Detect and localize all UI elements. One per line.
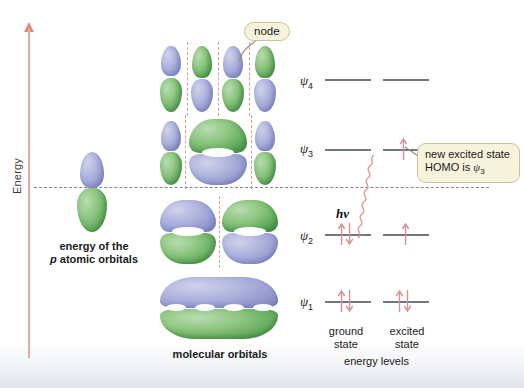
energy-levels-label: energy levels bbox=[315, 355, 438, 368]
atomic-orbital-caption-line1: energy of the bbox=[40, 240, 148, 253]
excited-state-line2: state bbox=[376, 338, 438, 351]
psi3-node-line-1 bbox=[185, 115, 186, 189]
mo-row-psi3 bbox=[160, 119, 280, 185]
psi1-label: ψ1 bbox=[283, 294, 313, 312]
psi2-left-bottom bbox=[160, 233, 216, 264]
psi3-lobe-4-top bbox=[255, 121, 275, 151]
mo-row-psi4 bbox=[160, 46, 280, 112]
ground-state-label: ground state bbox=[315, 325, 377, 351]
psi3-merged-bottom bbox=[189, 154, 247, 185]
psi4-label: ψ4 bbox=[283, 73, 313, 91]
psi4-lobe-1-top bbox=[161, 46, 181, 76]
molecular-orbital-diagram: Energy energy of the p atomic orbitals bbox=[0, 0, 524, 388]
psi4-lobe-2-top bbox=[192, 46, 212, 78]
psi3-label: ψ3 bbox=[283, 141, 313, 159]
homo-is-text: HOMO is bbox=[425, 161, 473, 173]
psi2-right-gap bbox=[234, 227, 266, 236]
excited-state-label: excited state bbox=[376, 325, 438, 351]
psi1-gap-3 bbox=[224, 304, 244, 311]
electron-psi1-ground-down bbox=[345, 289, 354, 313]
excited-callout-line1: new excited state bbox=[425, 148, 512, 161]
psi1-bottom-band bbox=[160, 309, 278, 339]
ground-state-line2: state bbox=[315, 338, 377, 351]
psi4-lobe-3-bottom bbox=[222, 79, 244, 112]
psi4-lobe-4-bottom bbox=[254, 79, 276, 112]
psi3-node-line-2 bbox=[251, 115, 252, 189]
energy-axis-line bbox=[28, 28, 30, 358]
psi3-symbol-inline: ψ3 bbox=[473, 161, 484, 173]
psi1-gap-2 bbox=[195, 304, 215, 311]
psi1-gap-1 bbox=[166, 304, 186, 311]
molecular-orbitals-caption: molecular orbitals bbox=[150, 348, 290, 361]
psi2-node-line-1 bbox=[219, 196, 220, 268]
level-psi4-excited bbox=[383, 79, 429, 81]
psi4-lobe-2-bottom bbox=[191, 79, 213, 112]
level-psi4-ground bbox=[325, 79, 371, 81]
psi1-gap-4 bbox=[253, 304, 273, 311]
psi3-lobe-1-bottom bbox=[160, 152, 182, 185]
psi3-merged-gap bbox=[202, 148, 234, 157]
psi2-right-bottom bbox=[222, 233, 278, 264]
ground-state-line1: ground bbox=[315, 325, 377, 338]
p-atomic-orbital bbox=[72, 152, 112, 232]
new-excited-state-callout: new excited state HOMO is ψ3 bbox=[417, 143, 520, 183]
psi4-node-line-1 bbox=[187, 42, 188, 116]
p-orbital-top-lobe bbox=[80, 152, 104, 188]
psi4-lobe-1-bottom bbox=[160, 78, 182, 112]
mo-row-psi2 bbox=[160, 200, 280, 264]
psi3-subscript-inline: 3 bbox=[480, 167, 484, 176]
psi2-label: ψ2 bbox=[283, 228, 313, 246]
mo-row-psi1 bbox=[160, 277, 280, 339]
excited-state-line1: excited bbox=[376, 325, 438, 338]
electron-psi1-excited-down bbox=[403, 289, 412, 313]
photon-energy-label: hν bbox=[336, 206, 349, 222]
psi3-lobe-1-top bbox=[161, 121, 181, 151]
p-italic: p bbox=[50, 253, 57, 265]
node-callout: node bbox=[244, 22, 290, 41]
psi4-node-line-2 bbox=[218, 42, 219, 116]
excited-callout-line2: HOMO is ψ3 bbox=[425, 161, 512, 178]
p-orbital-bottom-lobe bbox=[77, 188, 107, 232]
atomic-orbital-caption: energy of the p atomic orbitals bbox=[40, 240, 148, 266]
atomic-orbital-caption-line2: p atomic orbitals bbox=[40, 253, 148, 266]
psi2-left-gap bbox=[172, 227, 204, 236]
energy-axis-label: Energy bbox=[11, 141, 23, 211]
photon-squiggle-arrow bbox=[352, 150, 412, 240]
psi3-lobe-4-bottom bbox=[254, 152, 276, 185]
atomic-orbitals-text: atomic orbitals bbox=[57, 253, 138, 265]
